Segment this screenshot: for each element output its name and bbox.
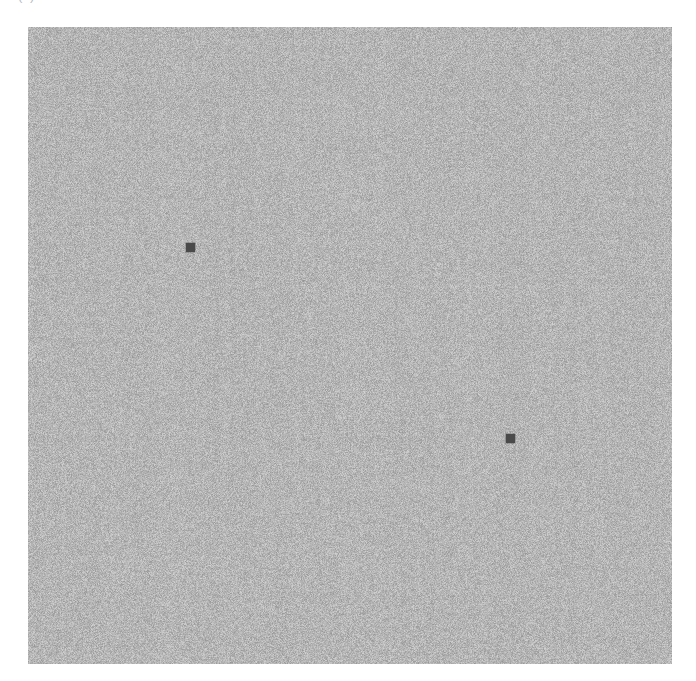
figure-caption-remnant: (a) [0, 0, 696, 14]
marker-1 [186, 243, 195, 252]
figure-caption-text: (a) [18, 0, 35, 3]
marker-2 [506, 434, 515, 443]
noise-field-canvas [28, 27, 672, 664]
noise-field-figure [28, 27, 672, 664]
